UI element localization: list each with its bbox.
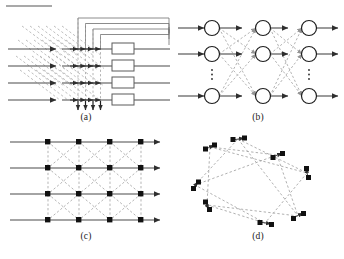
ring-node-6a [291,216,296,221]
ring-node-5b [269,222,274,227]
ring-node-7a [306,175,311,180]
delay-boxes [112,43,134,105]
panel-b-neural-network: (b) [172,0,344,129]
delay-box-2 [112,60,134,71]
panel-c-mesh-lattice: (c) [0,130,172,259]
ring-node-8b [280,151,285,156]
delay-box-3 [112,77,134,88]
panel-c-caption: (c) [0,231,172,241]
ring-node-7b [304,166,309,171]
diagonal-broadcast-lines [16,26,104,100]
tap-columns [78,18,101,101]
node-layer3-1 [302,21,317,36]
ring-node-2a [203,147,208,152]
node-layer1-2 [205,47,220,62]
node-layer2-1 [256,21,271,36]
ring-nodes [191,136,311,228]
ring-node-3a [191,186,196,191]
ring-node-4b [207,207,212,212]
panel-d-caption: (d) [172,231,344,241]
ring-node-3b [196,180,201,185]
panel-a-diagram [0,0,172,129]
output-arrows [78,101,101,110]
figure-root: (a) [0,0,344,259]
ring-node-4a [203,200,208,205]
layer-signal-paths [178,28,338,96]
feedback-loop-4 [101,27,170,49]
node-layer3-2 [302,47,317,62]
ring-node-6b [301,211,306,216]
node-layer1-1 [205,21,220,36]
tap-arrowheads [70,49,101,100]
delay-box-4 [112,94,134,105]
node-layer2-2 [256,47,271,62]
node-layer1-3 [205,89,220,104]
ring-node-1a [231,137,236,142]
panel-a-systolic-array: (a) [0,0,172,129]
panel-b-diagram [172,0,344,129]
ring-node-2b [212,143,217,148]
node-layer3-3 [302,89,317,104]
delay-box-1 [112,43,134,54]
ellipsis-dots [211,69,310,80]
panel-d-ring-topology: (d) [172,130,344,259]
ring-node-1b [242,136,247,141]
diagonal-links [48,142,141,220]
interlayer-connections [219,28,302,96]
ring-node-8a [271,155,276,160]
node-layer2-3 [256,89,271,104]
ring-node-5a [258,220,263,225]
panel-b-caption: (b) [172,112,344,122]
panel-a-caption: (a) [0,112,172,122]
mesh-rows [10,142,160,220]
